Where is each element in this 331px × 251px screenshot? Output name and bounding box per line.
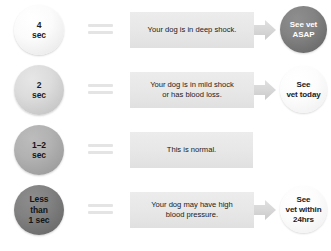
equals-icon	[88, 204, 113, 216]
time-circle-label: 4sec	[30, 20, 48, 41]
message-line: This is normal.	[167, 145, 216, 155]
message-box: Your dog is in mild shockor has blood lo…	[130, 72, 254, 108]
message-text: Your dog is in deep shock.	[148, 25, 237, 35]
time-line: sec	[32, 150, 46, 161]
action-line: See vet	[290, 20, 317, 30]
message-text: Your dog is in mild shockor has blood lo…	[150, 80, 234, 100]
action-circle: Seevet within24hrs	[280, 186, 327, 233]
time-circle: 2sec	[14, 65, 64, 115]
time-line: 1–2	[32, 140, 46, 151]
time-circle-label: Lessthan1 sec	[27, 194, 52, 226]
time-circle: Lessthan1 sec	[14, 185, 64, 235]
time-line: sec	[32, 90, 46, 101]
action-line: vet within	[286, 205, 322, 215]
crt-row: Lessthan1 secYour dog may have highblood…	[0, 180, 331, 240]
message-box: Your dog may have highblood pressure.	[130, 192, 254, 228]
time-circle-label: 2sec	[30, 80, 48, 101]
arrow-right-icon	[254, 19, 276, 41]
time-line: 2	[32, 80, 46, 91]
action-circle-label: See vetASAP	[288, 20, 319, 40]
action-line: See	[286, 195, 322, 205]
message-line: or has blood loss.	[150, 90, 234, 100]
message-box: This is normal.	[130, 132, 253, 168]
time-line: Less	[29, 194, 50, 205]
action-circle-label: Seevet today	[284, 80, 322, 100]
message-line: Your dog is in mild shock	[150, 80, 234, 90]
time-line: 4	[32, 20, 46, 31]
message-line: Your dog is in deep shock.	[148, 25, 237, 35]
message-text: Your dog may have highblood pressure.	[151, 200, 233, 220]
time-line: sec	[32, 30, 46, 41]
action-circle: Seevet today	[280, 66, 327, 113]
arrow-right-icon	[254, 79, 276, 101]
equals-icon	[88, 24, 113, 36]
crt-guide-infographic: 4secYour dog is in deep shock.See vetASA…	[0, 0, 331, 251]
action-circle-label: Seevet within24hrs	[284, 195, 324, 225]
message-line: Your dog may have high	[151, 200, 233, 210]
action-circle: See vetASAP	[280, 6, 327, 53]
time-circle: 1–2sec	[14, 125, 64, 175]
time-circle-label: 1–2sec	[30, 140, 48, 161]
crt-row: 2secYour dog is in mild shockor has bloo…	[0, 60, 331, 120]
action-line: vet today	[286, 90, 320, 100]
arrow-right-icon	[254, 199, 276, 221]
action-line: 24hrs	[286, 215, 322, 225]
equals-icon	[88, 84, 113, 96]
action-line: ASAP	[290, 30, 317, 40]
message-text: This is normal.	[167, 145, 216, 155]
action-line: See	[286, 80, 320, 90]
message-line: blood pressure.	[151, 210, 233, 220]
message-box: Your dog is in deep shock.	[130, 12, 254, 48]
time-line: than	[29, 205, 50, 216]
crt-row: 1–2secThis is normal.	[0, 120, 331, 180]
equals-icon	[88, 144, 113, 156]
crt-row: 4secYour dog is in deep shock.See vetASA…	[0, 0, 331, 60]
time-circle: 4sec	[14, 5, 64, 55]
time-line: 1 sec	[29, 215, 50, 226]
